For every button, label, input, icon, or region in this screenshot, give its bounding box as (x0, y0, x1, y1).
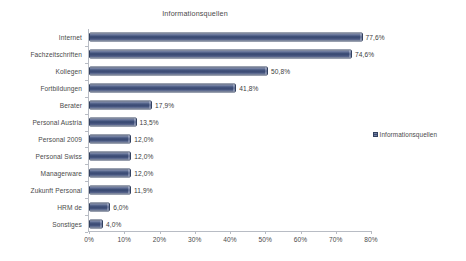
bar-wrapper (89, 118, 137, 127)
category-axis-label: Zukunft Personal (0, 186, 82, 193)
category-axis-label: Kollegen (0, 68, 82, 75)
x-axis-tick (371, 231, 372, 234)
chart-category-row: HRM de6,0% (0, 198, 466, 215)
bar-value-label: 11,9% (134, 186, 153, 193)
chart-category-row: Personal Swiss12,0% (0, 147, 466, 164)
category-axis-label: Fachzeitschriften (0, 51, 82, 58)
chart-category-row: Kollegen50,8% (0, 63, 466, 80)
bar-value-label: 4,0% (106, 220, 121, 227)
chart-category-row: Managerware12,0% (0, 164, 466, 181)
x-axis-tick (195, 231, 196, 234)
bar-wrapper (89, 185, 131, 194)
category-axis-label: Internet (0, 34, 82, 41)
x-axis-tick-label: 20% (153, 236, 167, 243)
chart-category-row: Fachzeitschriften74,6% (0, 46, 466, 63)
bar-value-label: 74,6% (355, 51, 374, 58)
chart-title: Informationsquellen (0, 9, 390, 18)
category-axis-label: Berater (0, 102, 82, 109)
bar[interactable] (89, 151, 131, 160)
category-axis-label: Personal 2009 (0, 135, 82, 142)
bar[interactable] (89, 118, 137, 127)
bar-wrapper (89, 84, 236, 93)
bar[interactable] (89, 202, 110, 211)
x-axis-tick-label: 0% (84, 236, 94, 243)
bar[interactable] (89, 67, 268, 76)
category-axis-label: Personal Austria (0, 119, 82, 126)
bar[interactable] (89, 134, 131, 143)
bar[interactable] (89, 168, 131, 177)
x-axis-tick (301, 231, 302, 234)
bar[interactable] (89, 101, 152, 110)
bar-wrapper (89, 33, 363, 42)
chart-category-row: Internet77,6% (0, 29, 466, 46)
bar-wrapper (89, 202, 110, 211)
x-axis-tick (89, 231, 90, 234)
bar-wrapper (89, 101, 152, 110)
category-axis-label: Personal Swiss (0, 152, 82, 159)
bar-value-label: 12,0% (134, 135, 153, 142)
bar-wrapper (89, 134, 131, 143)
bar-value-label: 12,0% (134, 169, 153, 176)
category-axis-label: Managerware (0, 169, 82, 176)
x-axis-tick (160, 231, 161, 234)
x-axis-tick (124, 231, 125, 234)
x-axis-tick (336, 231, 337, 234)
bar-value-label: 50,8% (271, 68, 290, 75)
chart-category-row: Sonstiges4,0% (0, 215, 466, 232)
x-axis-tick-label: 40% (223, 236, 237, 243)
category-axis-label: Fortbildungen (0, 85, 82, 92)
chart-category-row: Zukunft Personal11,9% (0, 181, 466, 198)
bar-value-label: 6,0% (113, 203, 128, 210)
bar-value-label: 41,8% (239, 85, 258, 92)
bar-wrapper (89, 168, 131, 177)
bar[interactable] (89, 33, 363, 42)
chart-category-row: Fortbildungen41,8% (0, 80, 466, 97)
x-axis-tick (265, 231, 266, 234)
x-axis-tick-label: 10% (118, 236, 132, 243)
chart-category-row: Berater17,9% (0, 97, 466, 114)
bar-value-label: 17,9% (155, 102, 174, 109)
chart-category-row: Personal 200912,0% (0, 131, 466, 148)
x-axis-tick-label: 60% (294, 236, 308, 243)
bar-wrapper (89, 67, 268, 76)
bar-wrapper (89, 219, 103, 228)
bar[interactable] (89, 50, 352, 59)
category-axis-label: Sonstiges (0, 220, 82, 227)
bar[interactable] (89, 84, 236, 93)
x-axis-tick-label: 80% (364, 236, 378, 243)
bar[interactable] (89, 185, 131, 194)
y-axis-tick (85, 232, 88, 233)
bar-chart: Informationsquellen Informationsquellen … (0, 0, 466, 261)
bar-value-label: 13,5% (140, 119, 159, 126)
bar-wrapper (89, 151, 131, 160)
x-axis-tick (230, 231, 231, 234)
x-axis-tick-label: 30% (188, 236, 202, 243)
x-axis-tick-label: 70% (329, 236, 343, 243)
chart-category-row: Personal Austria13,5% (0, 114, 466, 131)
bar-value-label: 12,0% (134, 152, 153, 159)
bar[interactable] (89, 219, 103, 228)
bar-wrapper (89, 50, 352, 59)
x-axis-tick-label: 50% (259, 236, 273, 243)
category-axis-label: HRM de (0, 203, 82, 210)
bar-value-label: 77,6% (366, 34, 385, 41)
